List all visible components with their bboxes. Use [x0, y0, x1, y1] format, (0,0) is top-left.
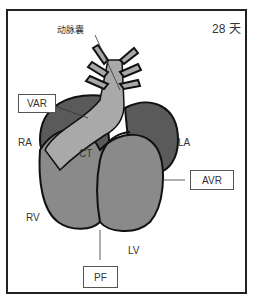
la-label: LA	[178, 137, 190, 148]
var-box: VAR	[18, 94, 56, 113]
aortic-sac-label: 动脉囊	[57, 23, 84, 36]
ct-label: CT	[79, 148, 92, 159]
rv-label: RV	[26, 212, 40, 223]
avr-box: AVR	[190, 170, 234, 190]
ra-label: RA	[18, 137, 32, 148]
heart-illustration	[0, 0, 253, 302]
lv-label: LV	[128, 245, 140, 256]
day-label: 28 天	[212, 19, 241, 36]
pf-box: PF	[83, 266, 118, 288]
